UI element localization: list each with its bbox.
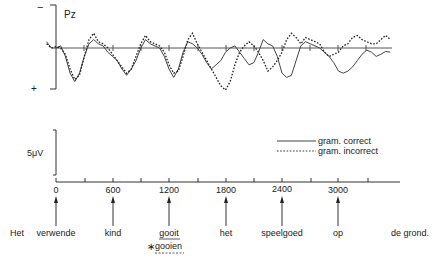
tick-label-3000: 3000 xyxy=(328,185,348,195)
word-het: Het xyxy=(10,228,25,238)
erp-figure: − + Pz 5μV gram. correct gram. incorrect xyxy=(0,0,442,260)
trace-gram-incorrect xyxy=(47,33,391,90)
arrow-up-icon xyxy=(224,196,228,226)
trace-gram-correct xyxy=(47,40,391,82)
tick-label-0: 0 xyxy=(53,185,58,195)
tick-label-1200: 1200 xyxy=(159,185,179,195)
arrow-up-icon xyxy=(111,196,115,226)
calibration-label: 5μV xyxy=(27,148,43,158)
word-gooit: gooit xyxy=(159,228,179,238)
word-op: op xyxy=(333,228,343,238)
onset-arrows xyxy=(54,196,340,226)
arrow-up-icon xyxy=(167,196,171,226)
calibration-bar xyxy=(53,130,56,175)
tick-label-2400: 2400 xyxy=(272,184,292,194)
arrow-up-icon xyxy=(54,196,58,226)
word-het-2: het xyxy=(220,228,233,238)
sentence: Het verwende kind gooit het speelgoed op… xyxy=(10,228,429,253)
word-verwende: verwende xyxy=(36,228,75,238)
legend: gram. correct gram. incorrect xyxy=(277,136,379,156)
negative-polarity-label: − xyxy=(37,1,43,13)
ungrammatical-marker: ∗ xyxy=(147,241,155,252)
word-speelgoed: speelgoed xyxy=(261,228,303,238)
time-axis: 0 600 1200 1800 2400 3000 xyxy=(53,178,400,195)
word-gooien: gooien xyxy=(155,241,182,251)
word-de-grond: de grond. xyxy=(391,228,429,238)
legend-label-incorrect: gram. incorrect xyxy=(318,146,379,156)
positive-polarity-label: + xyxy=(31,83,37,94)
channel-label: Pz xyxy=(64,9,76,20)
tick-label-1800: 1800 xyxy=(216,185,236,195)
word-kind: kind xyxy=(105,228,122,238)
legend-label-correct: gram. correct xyxy=(318,136,372,146)
arrow-up-icon xyxy=(280,196,284,226)
tick-label-600: 600 xyxy=(105,185,120,195)
arrow-up-icon xyxy=(336,196,340,226)
